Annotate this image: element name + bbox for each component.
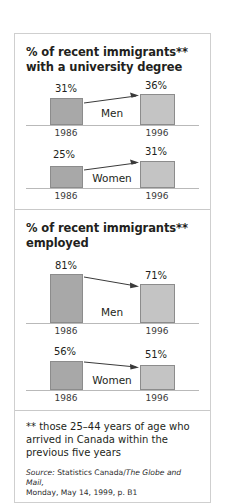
chart-employed-men: 81% 71% Men 1986 1996 — [26, 260, 199, 343]
source-label: Source: — [26, 468, 55, 477]
axis-baseline — [26, 323, 199, 324]
panel-title-line-1: % of recent immigrants** — [26, 45, 199, 60]
footnote: ** those 25–44 years of age who arrived … — [15, 411, 210, 460]
series-label: Women — [79, 374, 145, 386]
chart-degree-men: 31% 36% Men 1986 1996 — [26, 83, 199, 146]
footnote-line-2: arrived in Canada within the — [26, 433, 199, 446]
panel-title-line-2: employed — [26, 236, 199, 251]
x-tick-1996: 1996 — [131, 393, 183, 403]
x-tick-1986: 1986 — [40, 393, 92, 403]
x-tick-1986: 1986 — [40, 191, 92, 201]
series-label: Men — [82, 306, 142, 318]
x-tick-1986: 1986 — [40, 326, 92, 336]
x-tick-1986: 1986 — [40, 128, 92, 138]
axis-baseline — [26, 188, 199, 189]
source-agency: Statistics Canada/ — [55, 468, 126, 477]
panel-title-line-1: % of recent immigrants** — [26, 221, 199, 236]
panel-employed: % of recent immigrants** employed 81% 71… — [15, 210, 210, 409]
x-tick-1996: 1996 — [131, 326, 183, 336]
source-line-2: Monday, May 14, 1999, p. B1 — [26, 488, 199, 498]
chart-degree-women: 25% 31% Women 1986 1996 — [26, 149, 199, 209]
footnote-line-1: ** those 25–44 years of age who — [26, 420, 199, 433]
panel-title-employed: % of recent immigrants** employed — [26, 210, 199, 250]
panel-title-line-2: with a university degree — [26, 60, 199, 75]
source-note: Source: Statistics Canada/The Globe and … — [15, 460, 210, 499]
x-tick-1996: 1996 — [131, 128, 183, 138]
axis-baseline — [26, 390, 199, 391]
chart-employed-women: 56% 51% Women 1986 1996 — [26, 346, 199, 410]
panel-university-degree: % of recent immigrants** with a universi… — [15, 34, 210, 209]
panel-title-university-degree: % of recent immigrants** with a universi… — [26, 34, 199, 74]
axis-baseline — [26, 125, 199, 126]
series-label: Women — [79, 172, 145, 184]
footnote-line-3: previous five years — [26, 446, 199, 459]
infographic-card: % of recent immigrants** with a universi… — [14, 33, 211, 503]
series-label: Men — [82, 107, 142, 119]
source-line-1: Source: Statistics Canada/The Globe and … — [26, 468, 199, 489]
x-tick-1996: 1996 — [131, 191, 183, 201]
